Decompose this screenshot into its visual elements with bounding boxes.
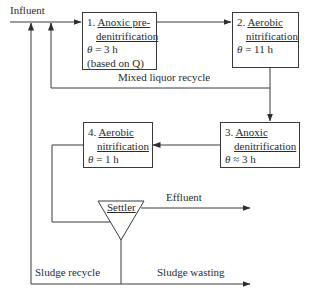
- unit-3-anoxic-denitrification: 3. Anoxic denitrification θ ≈ 3 h: [220, 122, 300, 168]
- unit-2-aerobic-nitrification: 2. Aerobic nitrification θ = 11 h: [232, 12, 299, 68]
- unit-name: Anoxic pre-: [97, 16, 150, 28]
- theta-symbol: θ: [88, 153, 93, 165]
- retention-time: = 3 h: [95, 43, 118, 55]
- unit-number: 3.: [225, 126, 233, 138]
- influent-label: Influent: [10, 4, 45, 17]
- retention-time: = 1 h: [96, 153, 119, 165]
- unit-name-cont: denitrification: [234, 140, 296, 152]
- unit-1-anoxic-predenitrification: 1. Anoxic pre- denitrification θ = 3 h (…: [82, 12, 157, 70]
- unit-4-aerobic-nitrification: 4. Aerobic nitrification θ = 1 h: [83, 122, 153, 168]
- theta-symbol: θ: [237, 43, 242, 55]
- theta-symbol: θ: [87, 43, 92, 55]
- unit-name: Anoxic: [235, 126, 267, 138]
- unit-name: Aerobic: [247, 16, 282, 28]
- mixed-liquor-recycle-label: Mixed liquor recycle: [118, 71, 210, 84]
- sludge-wasting-label: Sludge wasting: [157, 266, 225, 279]
- unit-name: Aerobic: [98, 126, 133, 138]
- theta-symbol: θ: [225, 153, 230, 165]
- effluent-label: Effluent: [166, 191, 202, 204]
- unit-name-cont: nitrification: [97, 140, 149, 152]
- unit-number: 1.: [87, 16, 95, 28]
- unit-note: (based on Q): [87, 57, 144, 69]
- unit-name-cont: denitrification: [96, 30, 158, 42]
- unit-name-cont: nitrification: [246, 30, 298, 42]
- settler-label: Settler: [107, 201, 136, 214]
- retention-time: = 11 h: [245, 43, 273, 55]
- unit-number: 4.: [88, 126, 96, 138]
- sludge-recycle-label: Sludge recycle: [35, 266, 100, 279]
- retention-time: ≈ 3 h: [233, 153, 256, 165]
- unit-number: 2.: [237, 16, 245, 28]
